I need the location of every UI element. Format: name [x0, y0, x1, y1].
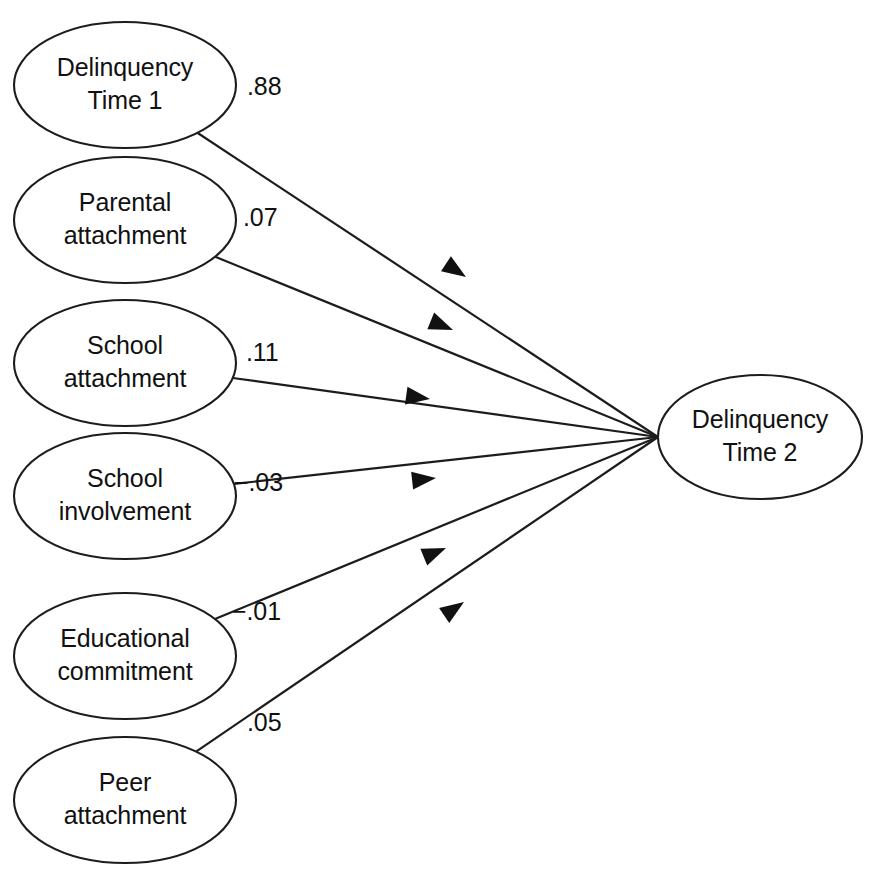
node-parental-attachment[interactable]: Parentalattachment	[14, 157, 236, 283]
node-label-line1-educational-commitment: Educational	[60, 624, 190, 652]
arrowhead-school-involvement	[411, 469, 437, 490]
edge-delinquency-time-1-to-delinquency-time-2	[197, 133, 658, 437]
node-label-line1-school-involvement: School	[87, 464, 163, 492]
arrowhead-delinquency-time-1	[441, 256, 471, 284]
node-label-line2-delinquency-time-1: Time 1	[88, 86, 163, 114]
coefficient-label-school-attachment: .11	[246, 338, 279, 366]
arrowheads-group	[405, 256, 471, 623]
node-label-line1-school-attachment: School	[87, 331, 163, 359]
node-label-line1-parental-attachment: Parental	[79, 188, 171, 216]
edge-school-attachment-to-delinquency-time-2	[233, 378, 658, 437]
predictor-nodes-group: DelinquencyTime 1ParentalattachmentSchoo…	[14, 22, 236, 863]
node-peer-attachment[interactable]: Peerattachment	[14, 737, 236, 863]
outcome-node-label-line2: Time 2	[723, 438, 798, 466]
node-label-line2-school-involvement: involvement	[59, 497, 191, 525]
coefficient-label-parental-attachment: .07	[243, 203, 277, 231]
coefficient-label-educational-commitment: −.01	[232, 597, 281, 625]
node-label-line2-educational-commitment: commitment	[57, 657, 192, 685]
node-school-attachment[interactable]: Schoolattachment	[14, 300, 236, 426]
node-label-line1-delinquency-time-1: Delinquency	[57, 53, 194, 81]
edge-parental-attachment-to-delinquency-time-2	[215, 257, 658, 437]
arrowhead-educational-commitment	[420, 540, 449, 566]
edge-educational-commitment-to-delinquency-time-2	[215, 437, 658, 619]
node-school-involvement[interactable]: Schoolinvolvement	[14, 433, 236, 559]
coefficient-label-delinquency-time-1: .88	[247, 72, 281, 100]
node-educational-commitment[interactable]: Educationalcommitment	[14, 593, 236, 719]
arrowhead-parental-attachment	[427, 313, 456, 339]
coefficient-label-peer-attachment: .05	[247, 708, 281, 736]
node-delinquency-time-2[interactable]: Delinquency Time 2	[658, 375, 862, 499]
outcome-node-label-line1: Delinquency	[692, 405, 829, 433]
node-label-line2-school-attachment: attachment	[64, 364, 187, 392]
node-label-line2-peer-attachment: attachment	[64, 801, 187, 829]
path-diagram-canvas: DelinquencyTime 1ParentalattachmentSchoo…	[0, 0, 878, 886]
coefficient-label-school-involvement: −.03	[234, 468, 283, 496]
path-diagram: DelinquencyTime 1ParentalattachmentSchoo…	[0, 0, 878, 886]
node-delinquency-time-1[interactable]: DelinquencyTime 1	[14, 22, 236, 148]
arrowhead-peer-attachment	[439, 595, 469, 623]
node-label-line1-peer-attachment: Peer	[99, 768, 151, 796]
node-label-line2-parental-attachment: attachment	[64, 221, 187, 249]
edge-school-involvement-to-delinquency-time-2	[234, 437, 658, 484]
